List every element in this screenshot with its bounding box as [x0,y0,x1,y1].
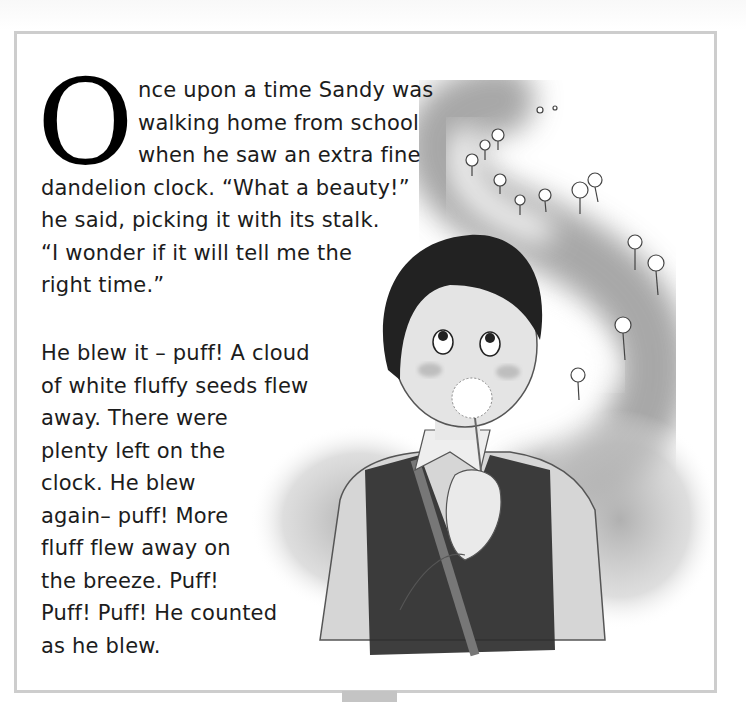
story-line: as he blew. [41,630,310,663]
story-line: again– puff! More [41,500,310,533]
story-paragraph-2: He blew it – puff! A cloud of white fluf… [41,337,310,662]
story-line: of white fluffy seeds flew [41,370,310,403]
story-line: right time.” [41,269,461,302]
story-line: Puff! Puff! He counted [41,597,310,630]
page-tab-marker [342,691,397,702]
story-line: fluff flew away on [41,532,310,565]
previous-page-edge [0,0,746,30]
story-line: plenty left on the [41,435,310,468]
story-line: away. There were [41,402,310,435]
drop-cap: O [37,72,134,172]
story-line: clock. He blew [41,467,310,500]
story-paragraph-1: O nce upon a time Sandy was walking home… [41,74,461,302]
story-line: the breeze. Puff! [41,565,310,598]
story-line: he said, picking it with its stalk. [41,204,461,237]
story-line: He blew it – puff! A cloud [41,337,310,370]
story-line: “I wonder if it will tell me the [41,237,461,270]
